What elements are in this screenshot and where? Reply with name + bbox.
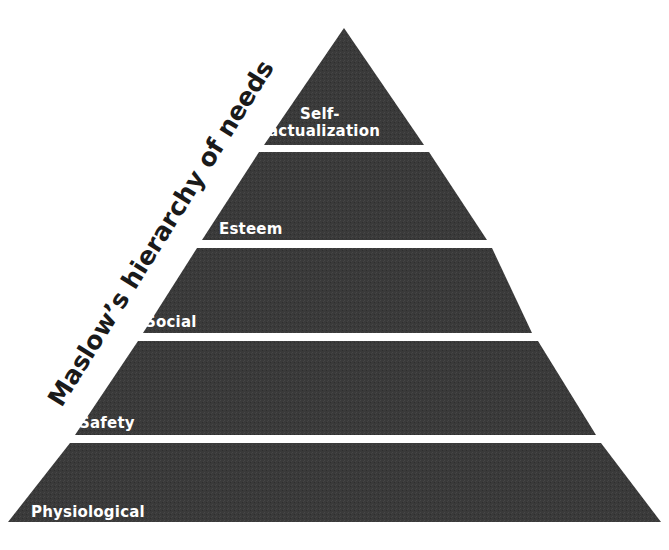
level-safety-label: Safety <box>79 416 135 431</box>
level-esteem-label: Esteem <box>219 222 283 237</box>
level-self-actualization-label-line2: actualization <box>268 124 380 139</box>
level-safety-shape <box>75 341 596 435</box>
pyramid-graphic <box>0 0 669 550</box>
level-self-actualization-label-line1: Self- <box>300 107 340 122</box>
level-physiological-label: Physiological <box>31 505 145 520</box>
maslow-pyramid-diagram: Self- actualization Esteem Social Safety… <box>0 0 669 550</box>
level-social-shape <box>143 248 532 333</box>
level-social-label: Social <box>145 315 197 330</box>
